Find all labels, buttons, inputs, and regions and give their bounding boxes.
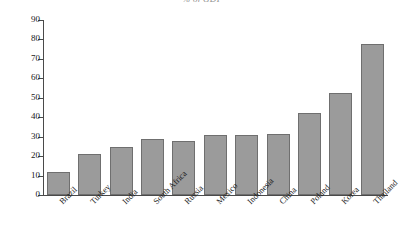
bar-chart-figure: % of GDP 0102030405060708090 BrazilTurke…	[0, 0, 405, 252]
x-label-slot: Korea	[325, 197, 356, 252]
x-label-slot: Brazil	[43, 197, 74, 252]
x-axis-labels: BrazilTurkeyIndiaSouth AfricaRussiaMexic…	[43, 197, 388, 252]
y-tick-label: 30	[31, 131, 40, 142]
y-tick-label: 50	[31, 92, 40, 103]
bar	[141, 139, 164, 195]
x-label-slot: Turkey	[74, 197, 105, 252]
y-tick-0: 0	[43, 195, 44, 196]
y-tick-label: 40	[31, 111, 40, 122]
bar	[361, 44, 384, 195]
y-tick-label: 90	[31, 14, 40, 25]
bar-slot	[200, 20, 231, 195]
bar-slot	[74, 20, 105, 195]
bar-slot	[325, 20, 356, 195]
bar-slot	[137, 20, 168, 195]
bar	[298, 113, 321, 195]
bar-slot	[106, 20, 137, 195]
bar-slot	[294, 20, 325, 195]
x-label-slot: Poland	[294, 197, 325, 252]
bar	[329, 93, 352, 195]
bar-slot	[263, 20, 294, 195]
x-label-slot: India	[106, 197, 137, 252]
y-tick-label: 0	[36, 189, 41, 200]
x-label-slot: Russia	[168, 197, 199, 252]
bar-series	[43, 20, 388, 195]
y-tick-label: 70	[31, 53, 40, 64]
y-tick-label: 10	[31, 170, 40, 181]
y-tick-label: 20	[31, 150, 40, 161]
chart-title: % of GDP	[0, 0, 405, 2]
bar-slot	[168, 20, 199, 195]
bar	[204, 135, 227, 195]
y-tick-label: 80	[31, 33, 40, 44]
bar-slot	[357, 20, 388, 195]
x-label-slot: South Africa	[137, 197, 168, 252]
y-tick-label: 60	[31, 72, 40, 83]
bar-slot	[43, 20, 74, 195]
plot-area: 0102030405060708090	[43, 20, 388, 195]
x-label-slot: Indonesia	[231, 197, 262, 252]
x-label-slot: China	[263, 197, 294, 252]
x-label-slot: Mexico	[200, 197, 231, 252]
x-label-slot: Thailand	[357, 197, 388, 252]
bar-slot	[231, 20, 262, 195]
